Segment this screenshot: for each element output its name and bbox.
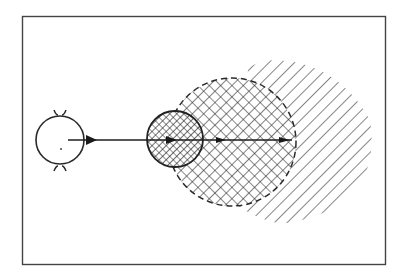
source-dot — [60, 148, 62, 150]
top-ear-icon — [54, 110, 66, 115]
diagram-canvas — [0, 0, 404, 276]
bottom-ear-icon — [54, 166, 66, 171]
arrowhead-icon — [86, 135, 97, 145]
diagram-figure — [0, 0, 404, 276]
